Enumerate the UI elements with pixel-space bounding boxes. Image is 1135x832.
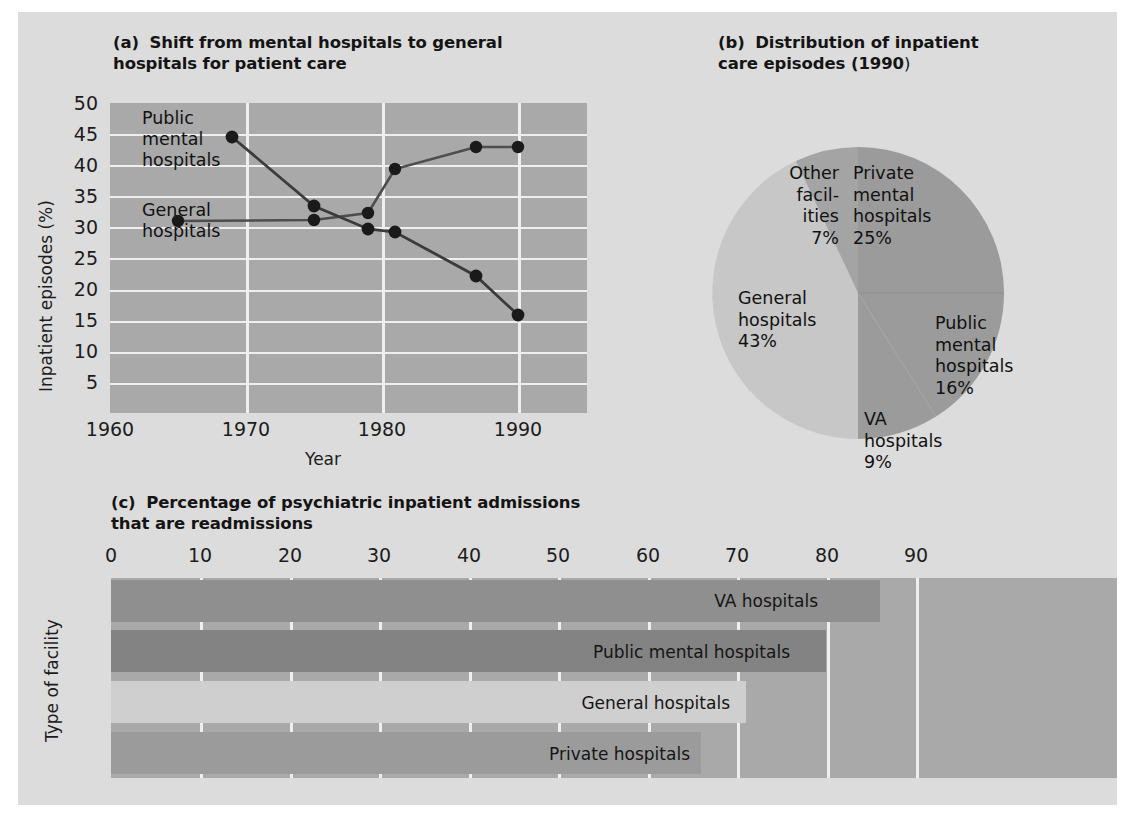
series-public-mental-hospitals-line [232,137,518,315]
panel-c-bar-label-public-mental-hospitals: Public mental hospitals [0,642,790,662]
panel-a-ytick-30: 30 [52,218,98,237]
panel-a-title-line2: hospitals for patient care [113,54,347,73]
panel-b-title-line2c: ) [904,54,910,73]
panel-a-ytick-5: 5 [52,373,98,392]
label-line-2: hospitals [142,221,220,241]
panel-c-xtick-0: 0 [81,546,141,565]
panel-b-title-line1: Distribution of inpatient [755,33,978,52]
panel-a-ytick-15: 15 [52,311,98,330]
panel-a-ytick-40: 40 [52,156,98,175]
label-line-1: Private [853,163,914,183]
panel-a-xlabel: Year [305,449,341,469]
panel-a-ytick-45: 45 [52,125,98,144]
label-line-2: mental [935,335,996,355]
label-line-1: Other [789,163,839,183]
label-line-4: 16% [935,378,974,398]
panel-b-label-va-hospitals: VA hospitals 9% [864,409,942,474]
panel-b-label-general-hospitals: General hospitals 43% [738,288,816,353]
series-general-hospitals-line [178,147,518,221]
panel-a-ytick-35: 35 [52,187,98,206]
panel-c-xtick-90: 90 [886,546,946,565]
label-line-2: hospitals [864,431,942,451]
label-line-3: 9% [864,452,892,472]
panel-c-xtick-80: 80 [797,546,857,565]
panel-c-xtick-40: 40 [439,546,499,565]
panel-c-xtick-30: 30 [349,546,409,565]
label-line-1: General [738,288,807,308]
figure-root: (a) Shift from mental hospitals to gener… [0,0,1135,832]
label-line-3: 43% [738,331,777,351]
label-line-1: General [142,200,211,220]
label-line-2: mental [142,129,203,149]
panel-b-label-public-mental-hospitals: Public mental hospitals 16% [935,313,1013,399]
panel-a-xtick-1960: 1960 [72,420,148,439]
panel-c-title: (c) Percentage of psychiatric inpatient … [111,492,731,534]
label-line-1: Public [142,108,194,128]
panel-a-title: (a) Shift from mental hospitals to gener… [113,32,543,74]
panel-b-title-line2a: care episodes ( [718,54,858,73]
label-line-4: 25% [853,228,892,248]
series-general-hospitals-markers [172,141,524,227]
series-public-mental-hospitals-markers [226,131,525,322]
label-line-2: facil- [796,185,839,205]
panel-c-xtick-70: 70 [707,546,767,565]
panel-c-xtick-50: 50 [528,546,588,565]
panel-c-xtick-10: 10 [170,546,230,565]
label-line-3: ities [803,206,839,226]
panel-c-xtick-60: 60 [618,546,678,565]
panel-a-ytick-25: 25 [52,249,98,268]
label-line-3: hospitals [142,150,220,170]
label-line-1: Public [935,313,987,333]
panel-c-ylabel: Type of facility [42,619,62,742]
panel-a-tag: (a) [113,33,139,52]
panel-b-tag: (b) [718,33,745,52]
panel-b-title: (b) Distribution of inpatient care episo… [718,32,1118,74]
panel-a-ytick-50: 50 [52,94,98,113]
label-line-4: 7% [811,228,839,248]
panel-c-xtick-20: 20 [260,546,320,565]
panel-b-label-other-facilities: Other facil- ities 7% [773,163,839,249]
panel-b-title-year: 1990 [858,54,904,73]
panel-c-title-line2: that are readmissions [111,514,313,533]
panel-a-label-public-mental-hospitals: Public mental hospitals [142,108,220,171]
label-line-3: hospitals [853,206,931,226]
panel-a-ytick-10: 10 [52,342,98,361]
panel-c-bar-label-private-hospitals: Private hospitals [0,744,690,764]
panel-c-bar-label-va-hospitals: VA hospitals [0,591,818,611]
panel-c-title-line1: Percentage of psychiatric inpatient admi… [146,493,580,512]
panel-a-title-line1: Shift from mental hospitals to general [150,33,503,52]
label-line-2: mental [853,185,914,205]
panel-a-xtick-1970: 1970 [208,420,284,439]
panel-c-tag: (c) [111,493,136,512]
panel-a-label-general-hospitals: General hospitals [142,200,220,242]
panel-c-bar-label-general-hospitals: General hospitals [0,693,730,713]
label-line-1: VA [864,409,887,429]
panel-a-xtick-1990: 1990 [480,420,556,439]
panel-a-xtick-1980: 1980 [344,420,420,439]
panel-b-label-private-mental-hospitals: Private mental hospitals 25% [853,163,931,249]
label-line-3: hospitals [935,356,1013,376]
label-line-2: hospitals [738,310,816,330]
gridline-v-90 [916,578,919,778]
panel-a-ytick-20: 20 [52,280,98,299]
